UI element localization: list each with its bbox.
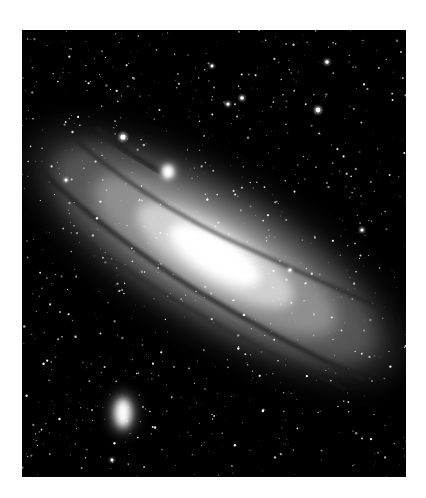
bright-star-4	[225, 101, 231, 107]
bright-star-1	[239, 95, 245, 101]
bright-star-8	[287, 267, 292, 272]
page: Black-and-white astronomical photograph …	[0, 0, 426, 498]
bright-star-7	[359, 227, 365, 233]
bright-star-9	[109, 457, 114, 462]
bright-star-6	[209, 63, 214, 68]
bright-star-2	[314, 106, 323, 115]
bright-star-0	[118, 132, 127, 141]
bright-star-3	[324, 59, 330, 65]
galaxy-photo: Black-and-white astronomical photograph …	[22, 30, 406, 477]
bright-star-5	[63, 177, 68, 182]
companion-galaxy-m110	[110, 392, 136, 434]
galaxy-image	[22, 30, 406, 477]
companion-galaxy-m32	[158, 162, 177, 183]
